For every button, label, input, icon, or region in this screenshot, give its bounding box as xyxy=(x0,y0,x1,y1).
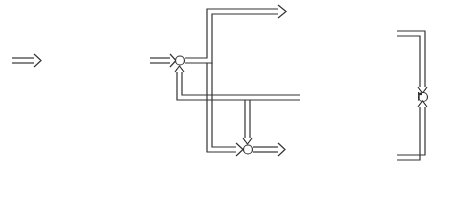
um-model-input-wire xyxy=(253,143,285,156)
block-diagram-wires xyxy=(0,0,457,202)
u-signal-wire xyxy=(185,5,286,63)
summing-junction-1 xyxy=(176,56,185,65)
yr-signal-wire xyxy=(12,54,41,67)
um-to-model-wire xyxy=(207,63,243,156)
um-signal-wire xyxy=(150,54,176,67)
y-signal-wire xyxy=(397,31,427,93)
summing-junction-2 xyxy=(244,145,253,154)
ym-signal-wire xyxy=(397,101,427,160)
uc-feedback-wire-2 xyxy=(243,100,252,144)
uc-feedback-wire-1 xyxy=(175,66,300,100)
